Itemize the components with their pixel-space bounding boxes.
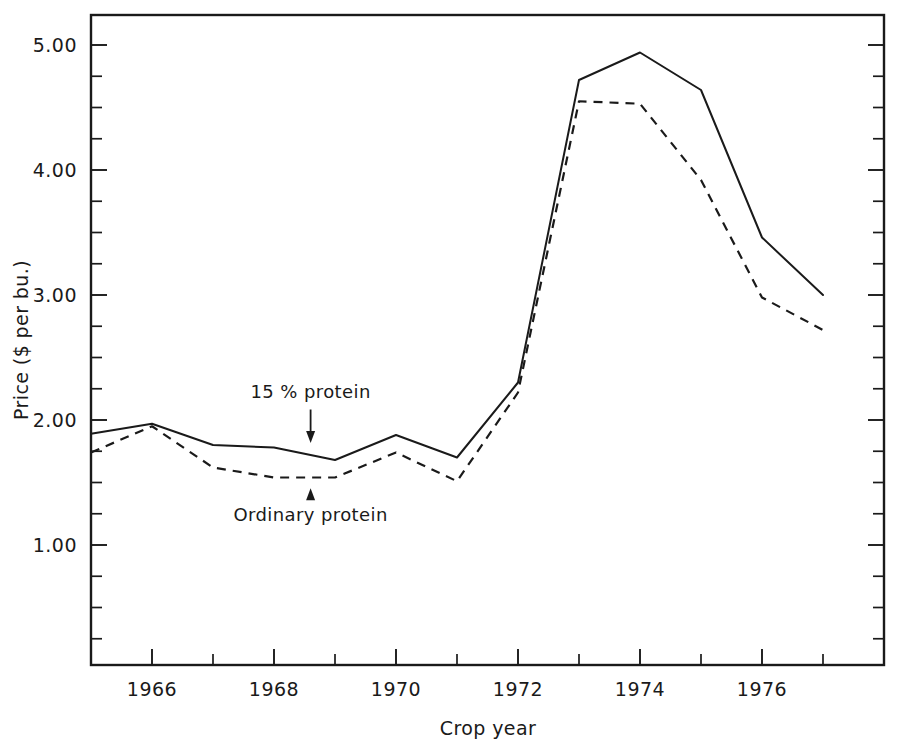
x-tick-label: 1966 <box>127 678 177 700</box>
y-tick-label: 2.00 <box>33 409 77 431</box>
annotation-label-2: Ordinary protein <box>233 504 387 525</box>
plot-frame <box>91 15 884 665</box>
chart-figure: 5.004.003.002.001.00 1966196819701972197… <box>0 0 900 749</box>
y-tick-label: 3.00 <box>33 284 77 306</box>
data-series-group <box>91 53 823 482</box>
series-line-2 <box>91 101 823 481</box>
y-axis-right-ticks <box>868 45 884 639</box>
x-tick-label: 1968 <box>249 678 299 700</box>
x-tick-label: 1976 <box>737 678 787 700</box>
x-tick-label: 1970 <box>371 678 421 700</box>
annotation-group: 15 % proteinOrdinary protein <box>233 381 387 526</box>
annotation-label-1: 15 % protein <box>250 381 370 402</box>
y-axis-major-ticks <box>91 45 107 545</box>
x-tick-label: 1972 <box>493 678 543 700</box>
x-tick-label: 1974 <box>615 678 665 700</box>
y-axis-title: Price ($ per bu.) <box>10 260 32 420</box>
y-axis-tick-labels: 5.004.003.002.001.00 <box>33 34 77 556</box>
price-line-chart: 5.004.003.002.001.00 1966196819701972197… <box>0 0 900 749</box>
annotation-arrow-head-1 <box>306 431 315 443</box>
y-tick-label: 1.00 <box>33 534 77 556</box>
y-tick-label: 5.00 <box>33 34 77 56</box>
x-axis-title: Crop year <box>440 717 536 739</box>
series-line-1 <box>91 53 823 461</box>
y-tick-label: 4.00 <box>33 159 77 181</box>
x-axis-tick-labels: 196619681970197219741976 <box>127 678 787 700</box>
y-axis-minor-ticks <box>91 76 102 639</box>
annotation-arrow-head-2 <box>306 488 315 500</box>
